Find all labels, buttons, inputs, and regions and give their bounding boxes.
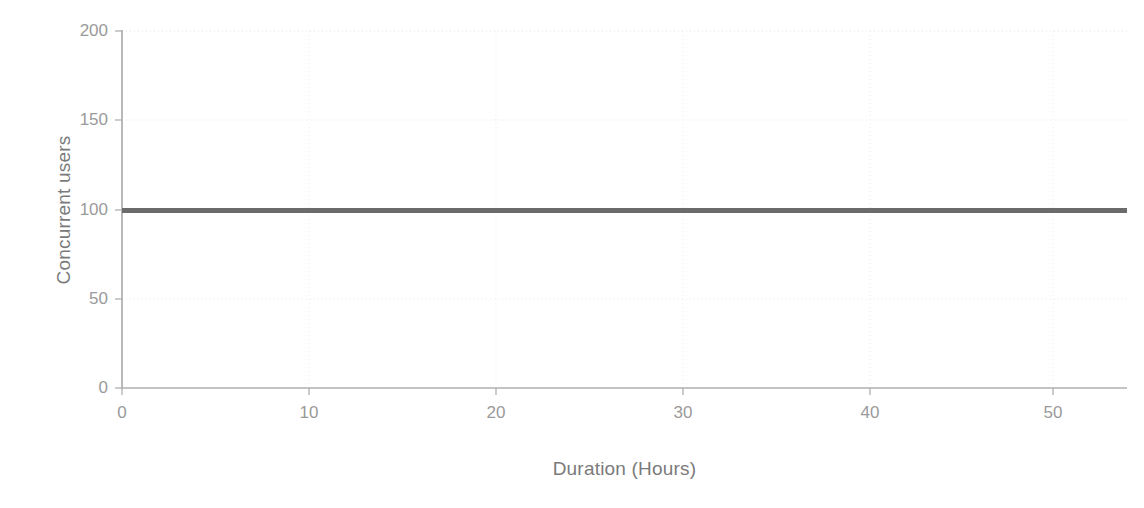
y-axis-title: Concurrent users (44, 0, 84, 420)
x-tick-label-0: 0 (92, 403, 152, 423)
chart-container: 200 150 100 50 0 0 10 20 30 40 50 Concur… (0, 0, 1144, 508)
x-tick-label-50: 50 (1023, 403, 1083, 423)
chart-plot-area (0, 0, 1144, 508)
x-axis-title: Duration (Hours) (122, 458, 1127, 480)
x-tick-label-10: 10 (279, 403, 339, 423)
horizontal-gridlines (122, 31, 1127, 299)
y-axis-ticks (115, 31, 122, 388)
x-axis-ticks (122, 388, 1053, 395)
x-tick-label-30: 30 (653, 403, 713, 423)
x-tick-label-40: 40 (840, 403, 900, 423)
x-tick-label-20: 20 (466, 403, 526, 423)
